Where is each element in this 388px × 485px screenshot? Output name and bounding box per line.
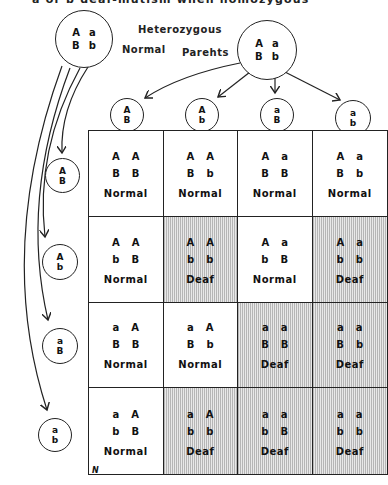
allele: b [89,39,96,52]
phenotype-label: Deaf [336,359,364,370]
phenotype-label: Normal [104,446,148,457]
top-gamete: Ab [185,98,219,132]
allele: A [124,105,131,115]
allele: a [89,26,96,39]
punnett-cell: AABBNormal [89,131,164,217]
phenotype-label: Normal [104,274,148,285]
allele: b [350,118,356,128]
allele: A [255,37,263,50]
punnett-cell-deaf: aabBDeaf [238,388,313,474]
allele: B [274,115,281,125]
allele: a [57,336,63,346]
punnett-cell: aABBNormal [89,303,164,389]
punnett-cell: AAbBNormal [89,217,164,303]
top-gamete: AB [110,98,144,132]
allele: a [274,105,280,115]
allele: b [52,435,58,445]
allele: B [72,39,80,52]
punnett-cell-deaf: AAbbDeaf [164,217,239,303]
parent-left: Aa Bb [55,10,113,68]
parent-right: Aa Bb [237,20,297,80]
punnett-cell: aAbBNormal [89,388,164,474]
phenotype-label: Deaf [261,359,289,370]
allele: a [52,425,58,435]
allele: B [59,176,66,186]
allele: a [350,108,356,118]
punnett-cell-deaf: aaBbDeaf [313,303,388,389]
allele: b [199,115,205,125]
phenotype-label: Normal [253,274,297,285]
allele: A [199,105,206,115]
allele: A [59,166,66,176]
allele: a [272,37,279,50]
phenotype-label: Normal [253,188,297,199]
top-gamete: aB [260,98,294,132]
punnett-cell: AaBBNormal [238,131,313,217]
corner-mark: N [92,466,99,475]
allele: B [57,346,64,356]
allele: b [57,262,63,272]
side-gamete: ab [38,418,72,452]
allele: A [72,26,80,39]
parents-label: Parehts [182,47,229,58]
phenotype-label: Normal [104,188,148,199]
allele: A [57,252,64,262]
phenotype-label: Normal [178,188,222,199]
normal-label: Normal [122,44,166,55]
punnett-cell-deaf: aAbbDeaf [164,388,239,474]
punnett-cell: AabBNormal [238,217,313,303]
allele: b [272,50,279,63]
phenotype-label: Deaf [186,274,214,285]
phenotype-label: Deaf [336,446,364,457]
punnett-cell-deaf: aaBBDeaf [238,303,313,389]
allele: B [124,115,131,125]
phenotype-label: Normal [104,359,148,370]
phenotype-label: Normal [328,188,372,199]
phenotype-label: Deaf [261,446,289,457]
punnett-cell-deaf: AabbDeaf [313,217,388,303]
phenotype-label: Deaf [186,446,214,457]
phenotype-label: Normal [178,359,222,370]
punnett-cell: AABbNormal [164,131,239,217]
allele: B [255,50,263,63]
heterozygous-label: Heterozygous [138,24,222,35]
punnett-cell: aABbNormal [164,303,239,389]
side-gamete: Ab [42,244,78,280]
punnett-cell: AaBbNormal [313,131,388,217]
phenotype-label: Deaf [336,274,364,285]
punnett-cell-deaf: aabbDeaf [313,388,388,474]
punnett-square: AABBNormal AABbNormal AaBBNormal AaBbNor… [88,130,388,475]
side-gamete: AB [45,158,80,193]
side-gamete: aB [42,328,78,364]
